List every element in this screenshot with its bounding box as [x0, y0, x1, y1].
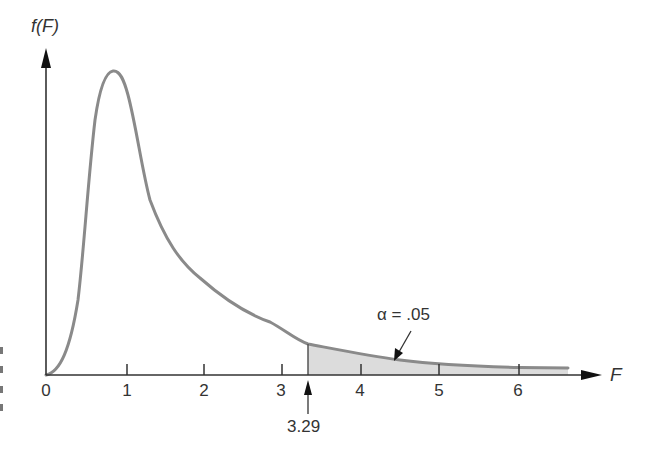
edge-mark	[0, 386, 3, 393]
tick-label-5: 5	[434, 381, 443, 401]
tick-label-2: 2	[199, 381, 208, 401]
y-axis-label: f(F)	[31, 16, 59, 37]
tick-label-3: 3	[276, 381, 285, 401]
f-distribution-chart	[0, 0, 655, 450]
tick-label-4: 4	[355, 381, 364, 401]
density-curve	[46, 71, 568, 375]
x-axis-label: F	[610, 364, 622, 386]
alpha-pointer-line	[399, 331, 411, 352]
tick-label-1: 1	[122, 381, 131, 401]
critical-value-arrow-icon	[304, 380, 312, 395]
edge-mark	[0, 347, 3, 354]
y-axis-arrow-icon	[41, 48, 51, 68]
rejection-region	[308, 344, 568, 375]
critical-value-label: 3.29	[287, 417, 320, 437]
edge-mark	[0, 404, 3, 411]
x-axis-arrow-icon	[581, 370, 602, 380]
tick-label-0: 0	[41, 381, 50, 401]
edge-mark	[0, 366, 3, 373]
alpha-label: α = .05	[377, 305, 430, 325]
tick-label-6: 6	[513, 381, 522, 401]
